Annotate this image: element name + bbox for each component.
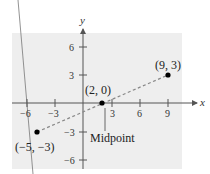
y-tick-label: 3	[69, 70, 74, 81]
x-tick-label: 6	[137, 108, 142, 119]
x-tick-label: 3	[110, 108, 115, 119]
y-tick-label: −6	[64, 155, 75, 166]
x-tick-label: −3	[48, 108, 59, 119]
point-b-label: (9, 3)	[155, 58, 181, 72]
midpoint-graph: x y −6 −3 3 6 9 6 3 −3 −6 (−5, −3) (2, 0…	[0, 0, 210, 174]
point-a-label: (−5, −3)	[15, 140, 55, 154]
y-tick-label: 6	[69, 42, 74, 53]
point-mid-label: (2, 0)	[85, 83, 111, 97]
x-tick-label: −6	[20, 108, 31, 119]
point-b	[165, 72, 170, 77]
y-axis-label: y	[79, 14, 85, 26]
x-tick-label: 9	[165, 108, 170, 119]
point-midpoint	[99, 100, 104, 105]
point-a	[34, 129, 39, 134]
y-tick-label: −3	[64, 127, 75, 138]
x-axis-label: x	[199, 96, 205, 108]
midpoint-annotation: Midpoint	[90, 131, 135, 145]
